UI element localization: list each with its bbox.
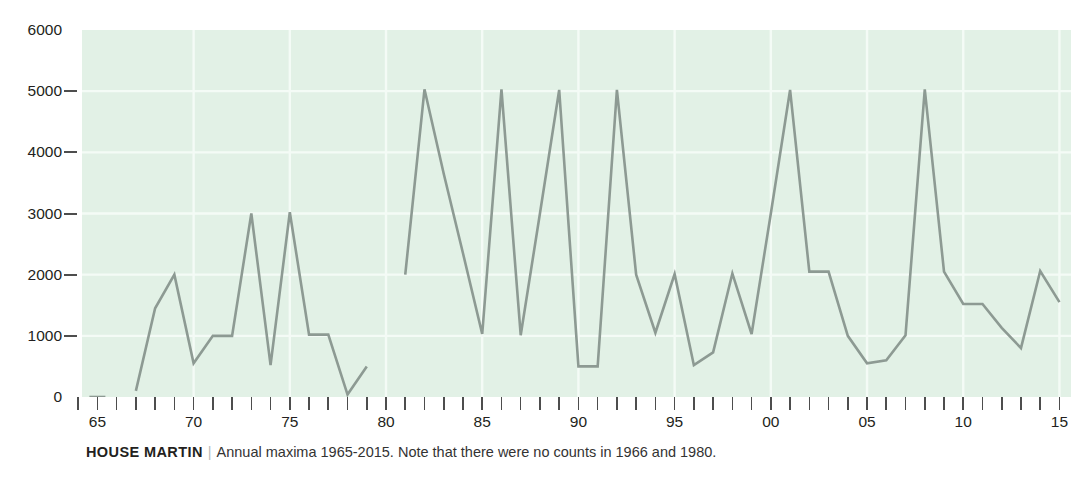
x-axis: 6570758085909500051015 xyxy=(82,397,1071,477)
x-axis-tick xyxy=(847,397,849,410)
x-axis-tick xyxy=(424,397,426,410)
y-axis-label: 4000 xyxy=(28,143,62,161)
plot-svg xyxy=(82,30,1071,397)
data-series-segment xyxy=(136,212,367,394)
x-axis-tick xyxy=(97,397,99,410)
x-axis-label: 95 xyxy=(666,413,683,431)
y-axis-tick xyxy=(64,213,77,215)
x-axis-tick xyxy=(520,397,522,410)
x-axis-tick xyxy=(135,397,137,410)
y-axis-tick xyxy=(64,335,77,337)
x-axis-tick xyxy=(982,397,984,410)
x-axis-tick xyxy=(212,397,214,410)
x-axis-tick xyxy=(924,397,926,410)
x-axis-tick xyxy=(174,397,176,410)
x-axis-tick xyxy=(597,397,599,410)
x-axis-tick xyxy=(1001,397,1003,410)
x-axis-tick xyxy=(770,397,772,410)
y-axis: 6000500040003000200010000 xyxy=(0,0,62,477)
x-axis-label: 85 xyxy=(474,413,491,431)
y-axis-tick xyxy=(64,151,77,153)
y-axis-label: 6000 xyxy=(28,21,62,39)
y-axis-label: 0 xyxy=(53,388,62,406)
y-axis-tick xyxy=(64,274,77,276)
x-axis-tick xyxy=(385,397,387,410)
x-axis-label: 15 xyxy=(1051,413,1068,431)
x-axis-tick xyxy=(751,397,753,410)
x-axis-tick xyxy=(732,397,734,410)
figure-caption: HOUSE MARTIN|Annual maxima 1965-2015. No… xyxy=(86,444,716,460)
x-axis-tick xyxy=(404,397,406,410)
x-axis-tick xyxy=(693,397,695,410)
x-axis-label: 05 xyxy=(858,413,875,431)
x-axis-tick xyxy=(501,397,503,410)
x-axis-tick xyxy=(1059,397,1061,410)
x-axis-tick xyxy=(1020,397,1022,410)
x-axis-tick xyxy=(231,397,233,410)
x-axis-tick xyxy=(616,397,618,410)
x-axis-tick xyxy=(789,397,791,410)
x-axis-tick xyxy=(578,397,580,410)
x-axis-label: 90 xyxy=(570,413,587,431)
x-axis-tick xyxy=(481,397,483,410)
x-axis-tick xyxy=(289,397,291,410)
x-axis-label: 75 xyxy=(281,413,298,431)
y-axis-label: 5000 xyxy=(28,82,62,100)
x-axis-label: 10 xyxy=(955,413,972,431)
x-axis-tick xyxy=(462,397,464,410)
x-axis-tick xyxy=(635,397,637,410)
x-axis-tick xyxy=(116,397,118,410)
caption-divider: | xyxy=(203,444,217,460)
x-axis-tick xyxy=(1039,397,1041,410)
x-axis-tick xyxy=(866,397,868,410)
x-axis-tick xyxy=(905,397,907,410)
data-series-segment xyxy=(405,89,1059,366)
y-axis-label: 3000 xyxy=(28,205,62,223)
x-axis-tick xyxy=(539,397,541,410)
x-axis-tick xyxy=(674,397,676,410)
y-axis-label: 2000 xyxy=(28,266,62,284)
x-axis-tick xyxy=(885,397,887,410)
x-axis-tick xyxy=(366,397,368,410)
x-axis-label: 80 xyxy=(377,413,394,431)
plot-area xyxy=(82,30,1071,397)
x-axis-tick xyxy=(962,397,964,410)
x-axis-tick xyxy=(77,397,79,410)
x-axis-label: 65 xyxy=(89,413,106,431)
x-axis-tick xyxy=(347,397,349,410)
x-axis-tick xyxy=(193,397,195,410)
chart-figure: 6000500040003000200010000 65707580859095… xyxy=(0,0,1071,477)
y-axis-label: 1000 xyxy=(28,327,62,345)
y-axis-tick xyxy=(64,90,77,92)
x-axis-tick xyxy=(809,397,811,410)
x-axis-tick xyxy=(251,397,253,410)
x-axis-tick xyxy=(270,397,272,410)
x-axis-tick xyxy=(154,397,156,410)
x-axis-tick xyxy=(943,397,945,410)
x-axis-tick xyxy=(327,397,329,410)
x-axis-tick xyxy=(712,397,714,410)
x-axis-tick xyxy=(443,397,445,410)
x-axis-tick xyxy=(558,397,560,410)
caption-species: HOUSE MARTIN xyxy=(86,444,203,460)
x-axis-tick xyxy=(655,397,657,410)
x-axis-label: 70 xyxy=(185,413,202,431)
x-axis-tick xyxy=(308,397,310,410)
caption-note: Annual maxima 1965-2015. Note that there… xyxy=(217,444,717,460)
x-axis-tick xyxy=(828,397,830,410)
x-axis-label: 00 xyxy=(762,413,779,431)
